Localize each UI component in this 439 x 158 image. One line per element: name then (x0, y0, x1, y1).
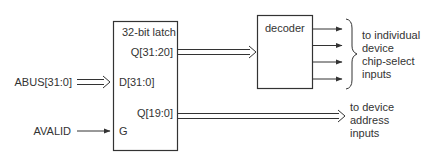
port-g: G (119, 125, 128, 137)
abus-bus-arrow (77, 76, 110, 88)
chip-select-line-1: to individual (362, 29, 420, 41)
decoder-output-arrows (313, 29, 342, 79)
decoder-title: decoder (265, 22, 305, 34)
address-line-1: to device (350, 101, 394, 113)
latch-decoder-diagram: 32-bit latch Q[31:20] D[31:0] Q[19:0] G … (0, 0, 439, 158)
chip-select-line-3: chip-select (362, 55, 420, 67)
q-high-bus-arrow (178, 46, 256, 58)
chip-select-line-2: device (362, 42, 420, 54)
address-line-3: inputs (350, 127, 394, 139)
chip-select-line-4: inputs (362, 68, 420, 80)
address-line-2: address (350, 114, 394, 126)
port-d: D[31:0] (119, 76, 154, 88)
abus-label: ABUS[31:0] (0, 76, 72, 88)
chip-select-brace (346, 19, 357, 89)
q-low-bus-arrow (178, 110, 345, 122)
latch-title: 32-bit latch (122, 26, 176, 38)
chip-select-annotation: to individual device chip-select inputs (362, 29, 420, 80)
address-annotation: to device address inputs (350, 101, 394, 139)
port-q-low: Q[19:0] (120, 107, 173, 119)
port-q-high: Q[31:20] (120, 46, 173, 58)
avalid-label: AVALID (0, 125, 71, 137)
